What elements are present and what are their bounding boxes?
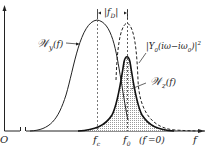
wy-label-symbol: 𝒲 <box>37 37 49 50</box>
fd-label: |fD| <box>104 8 118 19</box>
wz-shaded-area <box>80 57 172 131</box>
fc-label-sub: c <box>97 140 100 147</box>
y0-label-sup: 2 <box>197 40 201 46</box>
f0-label-sub: 0 <box>127 140 131 147</box>
origin-label: O <box>0 135 8 145</box>
y0-leader <box>139 53 146 63</box>
y-axis-arrow-icon <box>3 5 7 11</box>
fd-arrow-right-icon <box>124 12 127 15</box>
f-axis-label: f <box>193 135 197 145</box>
fc-label: fc <box>93 135 100 147</box>
f0-note-label: (f′=0) <box>139 136 165 145</box>
wy-label-arg: (f) <box>53 39 63 49</box>
y0-label-arg: (iω−iω <box>158 41 188 51</box>
fd-arrow-left-icon <box>98 12 101 15</box>
wz-label: 𝒲z(f) <box>150 76 176 90</box>
diagram-canvas <box>0 0 213 150</box>
y0-label: |Y0(iω−iω0)|2 <box>146 41 201 53</box>
fd-label-close: | <box>115 7 118 17</box>
wz-label-arg: (f) <box>166 77 176 87</box>
f0-label: f0 <box>123 135 131 147</box>
wz-label-symbol: 𝒲 <box>150 75 162 88</box>
y-axis <box>3 5 7 131</box>
wy-label: 𝒲y(f) <box>37 38 63 52</box>
